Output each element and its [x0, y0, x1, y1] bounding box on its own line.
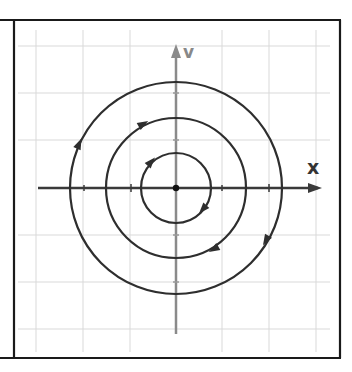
grid [18, 30, 330, 352]
equilibrium-point [173, 185, 179, 191]
arrow-icon [145, 155, 158, 169]
x-axis [38, 183, 322, 193]
phase-portrait-diagram: v x [0, 0, 352, 372]
x-axis-arrowhead-icon [308, 183, 322, 193]
x-axis-label: x [307, 156, 319, 178]
v-axis-label: v [183, 42, 194, 62]
